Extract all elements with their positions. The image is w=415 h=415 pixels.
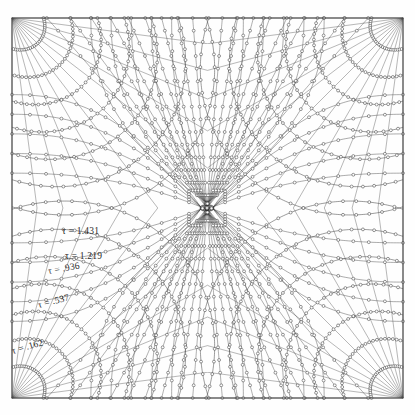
streamline-ray (324, 208, 403, 398)
data-point-marker (114, 65, 117, 68)
data-point-marker (37, 75, 40, 78)
data-point-marker (293, 153, 296, 156)
data-point-marker (171, 363, 174, 366)
data-point-marker (341, 389, 344, 392)
data-point-marker (198, 156, 201, 159)
streamline-curve (131, 18, 211, 208)
data-point-marker (238, 162, 241, 165)
data-point-marker (44, 158, 47, 161)
data-point-marker (322, 237, 325, 240)
streamline-curve (207, 18, 287, 208)
data-point-marker (235, 305, 238, 308)
data-point-marker (170, 93, 173, 96)
data-point-marker (194, 189, 197, 192)
data-point-marker (126, 30, 129, 33)
data-point-marker (265, 267, 268, 270)
data-point-marker (308, 282, 311, 285)
data-point-marker (104, 250, 107, 253)
data-point-marker (80, 85, 83, 88)
data-point-marker (136, 67, 139, 70)
data-point-marker (208, 28, 211, 31)
data-point-marker (105, 94, 108, 97)
data-point-marker (184, 59, 187, 62)
data-point-marker (175, 319, 178, 322)
data-point-marker (337, 175, 340, 178)
data-point-marker (260, 388, 263, 391)
data-point-marker (383, 300, 386, 303)
data-point-marker (226, 118, 229, 121)
data-point-marker (203, 245, 206, 248)
data-point-marker (171, 50, 174, 53)
data-point-marker (321, 263, 324, 266)
data-point-marker (256, 361, 259, 364)
streamline-curve (177, 208, 207, 398)
data-point-marker (382, 283, 385, 286)
data-point-marker (132, 266, 135, 269)
data-point-marker (289, 75, 292, 78)
data-point-marker (230, 37, 233, 40)
data-point-marker (97, 22, 100, 25)
data-point-marker (255, 55, 258, 58)
data-point-marker (333, 384, 336, 387)
data-point-marker (99, 33, 102, 36)
data-point-marker (90, 67, 93, 70)
data-point-marker (241, 50, 244, 53)
data-point-marker (180, 122, 183, 125)
data-point-marker (313, 334, 316, 337)
data-point-marker (185, 232, 188, 235)
data-point-marker (110, 34, 113, 37)
data-point-marker (313, 44, 316, 47)
data-point-marker (314, 55, 317, 58)
data-point-marker (116, 89, 119, 92)
data-point-marker (98, 55, 101, 58)
data-point-marker (120, 82, 123, 85)
data-point-marker (216, 333, 219, 336)
data-point-marker (322, 109, 325, 112)
streamline-ray (12, 18, 208, 70)
data-point-marker (102, 107, 105, 110)
data-point-marker (257, 264, 260, 267)
data-point-marker (35, 256, 38, 259)
data-point-marker (96, 179, 99, 182)
data-point-marker (104, 282, 107, 285)
data-point-marker (187, 245, 190, 248)
data-point-marker (127, 60, 130, 63)
data-point-marker (237, 143, 240, 146)
data-point-marker (274, 371, 277, 374)
data-point-marker (228, 59, 231, 62)
data-point-marker (237, 94, 240, 97)
data-point-marker (383, 280, 386, 283)
data-point-marker (398, 312, 401, 315)
data-point-marker (352, 296, 355, 299)
data-point-marker (179, 93, 182, 96)
data-point-marker (75, 274, 78, 277)
data-point-marker (161, 283, 164, 286)
data-point-marker (367, 153, 370, 156)
data-point-marker (341, 39, 344, 42)
data-point-marker (249, 118, 252, 121)
data-point-marker (161, 131, 164, 134)
data-point-marker (157, 162, 160, 165)
data-point-marker (226, 295, 229, 298)
data-point-marker (316, 234, 319, 237)
data-point-marker (186, 264, 189, 267)
data-point-marker (136, 334, 139, 337)
data-point-marker (123, 308, 126, 311)
data-point-marker (279, 172, 282, 175)
data-point-marker (173, 79, 176, 82)
data-point-marker (153, 65, 156, 68)
data-point-marker (127, 248, 130, 251)
data-point-marker (174, 308, 177, 311)
data-point-marker (258, 295, 261, 298)
data-point-marker (150, 34, 153, 37)
data-point-marker (292, 82, 295, 85)
data-point-marker (126, 93, 129, 96)
data-point-marker (281, 122, 284, 125)
streamline-curve (207, 207, 403, 243)
data-point-marker (352, 117, 355, 120)
data-point-marker (45, 283, 48, 286)
data-point-marker (310, 107, 313, 110)
data-point-marker (177, 108, 180, 111)
data-point-marker (223, 321, 226, 324)
data-point-marker (175, 283, 178, 286)
